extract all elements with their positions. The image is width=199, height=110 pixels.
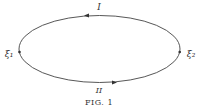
path-label-upper: I xyxy=(96,2,101,12)
left-point-marker xyxy=(18,51,21,54)
figure-caption: FIG. 1 xyxy=(85,98,113,107)
arrow-right-icon xyxy=(112,81,117,85)
closed-contour xyxy=(19,16,180,83)
point-label-left: ξ₁ xyxy=(5,49,14,59)
arrow-left-icon xyxy=(84,14,89,18)
right-point-marker xyxy=(178,51,181,54)
point-label-right: ξ₂ xyxy=(187,49,196,59)
contour-diagram: I II ξ₁ ξ₂ FIG. 1 xyxy=(0,0,199,110)
path-label-lower: II xyxy=(95,86,103,95)
